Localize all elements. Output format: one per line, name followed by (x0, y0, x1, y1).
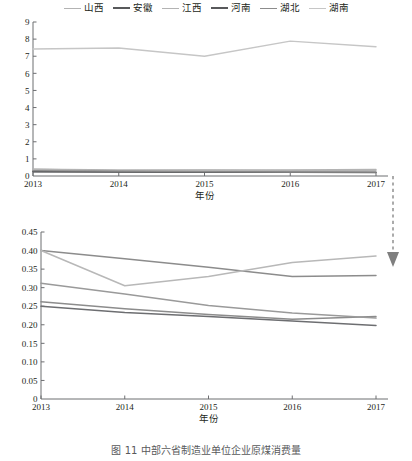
y-tick-label: 0.40 (22, 246, 38, 256)
y-tick-label: 3 (25, 120, 30, 130)
legend-item-label: 江西 (182, 3, 202, 13)
y-tick-label: 0.05 (22, 376, 38, 386)
x-tick-label: 2015 (196, 179, 215, 189)
y-tick-label: 0.45 (22, 228, 38, 237)
legend-item-label: 山西 (84, 3, 104, 13)
legend-item-安徽: 安徽 (113, 3, 153, 13)
y-tick-label: 1 (25, 154, 30, 164)
series-line-山西 (41, 251, 376, 277)
y-tick-label: 9 (25, 17, 30, 27)
legend-item-湖南: 湖南 (309, 3, 349, 13)
x-axis-title: 年份 (195, 190, 215, 201)
x-tick-label: 2014 (110, 179, 129, 189)
y-tick-label: 0.35 (22, 264, 38, 274)
chart-bottom-plot: 00.050.100.150.200.250.300.350.400.45201… (0, 228, 412, 428)
y-tick-label: 7 (25, 51, 30, 61)
figure-container: 山西安徽江西河南湖北湖南 012345678920132014201520162… (0, 0, 412, 461)
legend-swatch-icon (211, 7, 228, 9)
legend-item-label: 湖南 (329, 3, 349, 13)
x-tick-label: 2013 (32, 402, 51, 412)
legend-swatch-icon (260, 8, 277, 9)
y-tick-label: 6 (25, 69, 30, 79)
y-tick-label: 0.10 (22, 357, 38, 367)
series-line-湖南 (33, 41, 376, 56)
x-tick-label: 2015 (200, 402, 219, 412)
y-tick-label: 0.15 (22, 339, 38, 349)
x-tick-label: 2013 (24, 179, 43, 189)
series-line-湖北 (41, 283, 376, 318)
y-tick-label: 0.30 (22, 283, 38, 293)
x-tick-label: 2016 (283, 402, 302, 412)
legend-item-湖北: 湖北 (260, 3, 300, 13)
chart-top-plot: 012345678920132014201520162017年份 (0, 16, 412, 216)
y-tick-label: 8 (25, 34, 30, 44)
chart-top-coal-consumption: 012345678920132014201520162017年份 (0, 16, 412, 216)
legend-item-山西: 山西 (64, 3, 104, 13)
legend-swatch-icon (113, 7, 130, 9)
x-tick-label: 2014 (116, 402, 135, 412)
legend-swatch-icon (64, 8, 81, 9)
legend-item-label: 安徽 (133, 3, 153, 13)
y-tick-label: 4 (25, 103, 30, 113)
y-tick-label: 5 (25, 86, 30, 96)
chart-bottom-coal-consumption-zoom: 00.050.100.150.200.250.300.350.400.45201… (0, 228, 412, 428)
legend-swatch-icon (162, 8, 179, 9)
legend-item-河南: 河南 (211, 3, 251, 13)
legend-item-江西: 江西 (162, 3, 202, 13)
x-tick-label: 2016 (281, 179, 300, 189)
chart-legend: 山西安徽江西河南湖北湖南 (0, 0, 412, 16)
legend-item-label: 湖北 (280, 3, 300, 13)
x-axis-title: 年份 (199, 413, 219, 424)
y-tick-label: 0.25 (22, 301, 38, 311)
legend-item-label: 河南 (231, 3, 251, 13)
series-line-河南 (41, 306, 376, 325)
y-tick-label: 0.20 (22, 320, 38, 330)
legend-swatch-icon (309, 8, 326, 9)
figure-caption: 图 11 中部六省制造业单位企业原煤消费量 (0, 444, 412, 461)
y-tick-label: 2 (25, 137, 30, 147)
x-tick-label: 2017 (367, 402, 386, 412)
